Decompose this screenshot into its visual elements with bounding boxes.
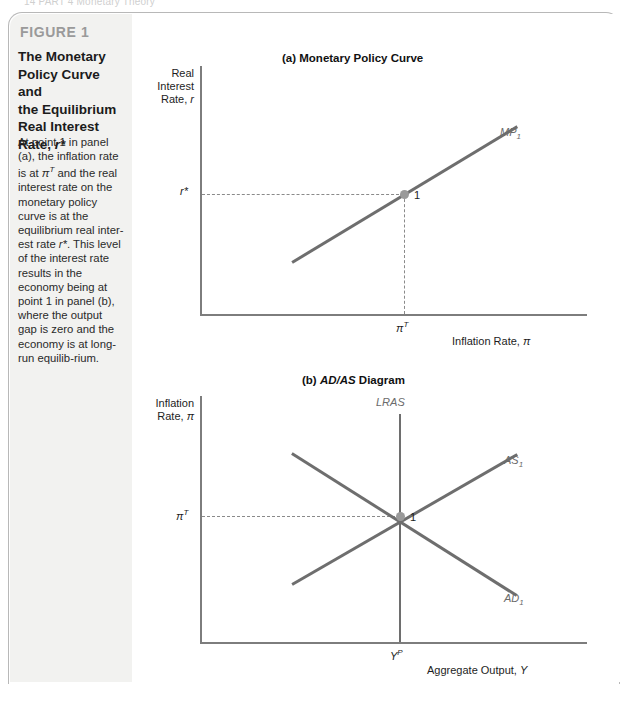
panel-b-y-tick-pi-target: πT: [176, 508, 188, 522]
panel-a-equilibrium-label: 1: [414, 189, 420, 201]
panel-b-x-axis-label: Aggregate Output, Y: [427, 664, 527, 677]
panel-a-x-axis: [200, 314, 587, 316]
panel-a-y-label-line-3: Rate, r: [161, 93, 194, 105]
panel-a-guide-horizontal: [202, 194, 404, 195]
panel-b-equilibrium-point: [396, 512, 405, 521]
figure-caption: At point 1 in panel (a), the inflation r…: [18, 135, 124, 365]
panel-a-y-label-symbol: r: [190, 93, 194, 105]
panel-b-title: (b) AD/AS Diagram: [302, 374, 405, 386]
panel-a-y-label-line-2: Interest: [157, 80, 194, 92]
panel-b-y-label-symbol: π: [187, 410, 194, 422]
figure-title-line-4: Real Interest: [18, 119, 99, 134]
panel-a-equilibrium-point: [400, 190, 409, 199]
figure-number-kicker: FIGURE 1: [20, 24, 89, 40]
panel-b-x-label-symbol: Y: [520, 664, 527, 676]
panel-a-x-label-symbol: π: [523, 335, 530, 347]
figure-plot-area: (a) Monetary Policy Curve Real Interest …: [132, 14, 620, 682]
panel-b-lras-curve-label: LRAS: [376, 396, 405, 408]
panel-b-ad-label-subscript: 1: [519, 598, 523, 607]
panel-b-guide-horizontal: [202, 516, 400, 517]
panel-b-title-italic: AD/AS: [320, 374, 356, 386]
panel-b-as-label-subscript: 1: [519, 460, 523, 469]
panel-b-y-label-line-1: Inflation: [155, 397, 194, 409]
panel-a-mp-curve-label: MP1: [500, 126, 521, 141]
panel-a-y-tick-r-star: r*: [180, 185, 188, 197]
panel-b-y-label-line-2: Rate, π: [157, 410, 194, 422]
figure-title-line-1: The Monetary: [18, 49, 106, 64]
panel-a-title-prefix: (a): [282, 52, 299, 64]
figure-title-line-2: Policy Curve and: [18, 67, 100, 100]
panel-b-title-suffix: Diagram: [356, 374, 405, 386]
caption-seg-3: . This level of the interest rate result…: [18, 238, 121, 364]
panel-b-equilibrium-label-text: 1: [410, 511, 416, 523]
panel-b-lras-label-base: LRAS: [376, 396, 405, 408]
panel-a-equilibrium-label-text: 1: [414, 189, 420, 201]
panel-a-x-tick-pi-target: πT: [396, 320, 408, 334]
panel-a-title: (a) Monetary Policy Curve: [282, 52, 423, 64]
panel-a-y-tick-value: r*: [180, 185, 188, 197]
panel-b-title-prefix: (b): [302, 374, 320, 386]
panel-b-y-axis: [200, 396, 202, 642]
panel-a-x-axis-label: Inflation Rate, π: [452, 335, 530, 348]
panel-b-y-axis-label: Inflation Rate, π: [132, 397, 194, 423]
panel-a-y-axis-label: Real Interest Rate, r: [132, 67, 194, 106]
panel-b-equilibrium-label: 1: [410, 511, 416, 523]
panel-a-x-tick-superscript: T: [403, 320, 408, 329]
panel-b-as-curve-label: AS1: [504, 454, 523, 469]
figure-title-line-3: the Equilibrium: [18, 102, 116, 117]
panel-a-guide-vertical: [404, 194, 405, 314]
running-head: 14 PART 4 Monetary Theory: [24, 0, 155, 7]
panel-b-x-tick-potential-output: YP: [390, 648, 403, 662]
panel-b-y-tick-superscript: T: [183, 508, 188, 517]
panel-b-lras-curve: [399, 414, 401, 642]
panel-a-mp-label-subscript: 1: [517, 132, 521, 141]
panel-a-title-main: Monetary Policy Curve: [299, 52, 423, 64]
panel-a-y-axis: [200, 66, 202, 314]
panel-b-ad-curve-label: AD1: [504, 592, 524, 607]
panel-a-mp-label-base: MP: [500, 126, 517, 138]
caption-r-star: r*: [59, 238, 67, 250]
panel-b-ad-label-base: AD: [504, 592, 519, 604]
panel-b-x-axis: [200, 642, 587, 644]
panel-b-as-label-base: AS: [504, 454, 519, 466]
panel-b-x-tick-superscript: P: [397, 648, 402, 657]
panel-a-y-label-line-1: Real: [171, 67, 194, 79]
